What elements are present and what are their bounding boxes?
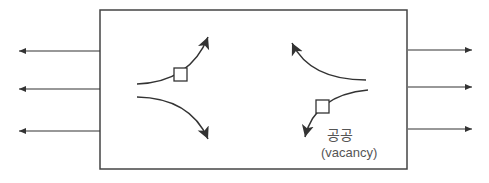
right-flux-arrows [408, 50, 472, 129]
left-upper-curve-arrow [137, 37, 208, 84]
vacancy-label-korean: 공공 [327, 128, 353, 142]
left-lower-curve-arrow [137, 97, 208, 139]
vacancy-box-left [174, 68, 187, 81]
right-curved-arrows [292, 43, 368, 137]
vacancy-box-right [316, 100, 329, 113]
vacancy-diffusion-diagram [0, 0, 489, 183]
left-curved-arrows [137, 37, 208, 139]
vacancy-label-english: (vacancy) [321, 146, 377, 160]
left-flux-arrows [19, 51, 100, 131]
right-upper-curve-arrow [292, 43, 366, 80]
